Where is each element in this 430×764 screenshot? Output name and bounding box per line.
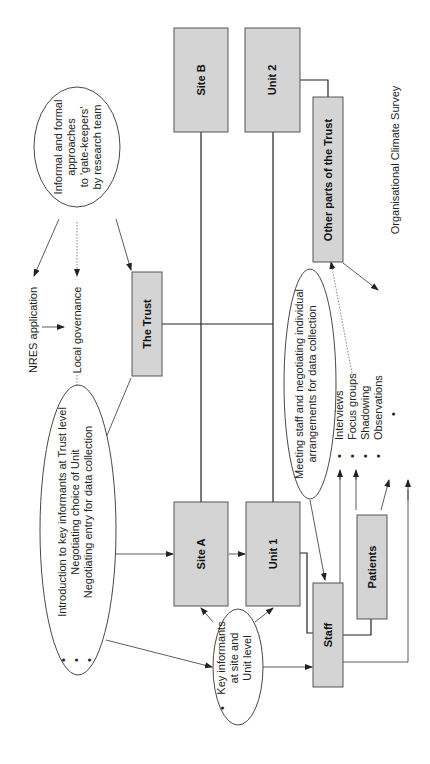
svg-text:Other parts of the Trust: Other parts of the Trust [322, 119, 334, 242]
svg-text:•: • [70, 658, 82, 662]
method-observations: Observations [372, 375, 384, 440]
svg-text:Patients: Patients [366, 546, 378, 589]
nres-application-label: NRES application [27, 287, 39, 373]
svg-text:Staff: Staff [322, 622, 334, 647]
box-unit-2: Unit 2 [245, 28, 300, 132]
svg-text:•: • [57, 658, 69, 662]
box-staff: Staff [313, 583, 343, 687]
ellipse-key-informants: Key informants at site and Unit level • [213, 609, 263, 725]
box-other-parts-of-trust: Other parts of the Trust [313, 97, 343, 262]
ellipse-gatekeepers: Informal and formal approaches to 'gate-… [34, 87, 120, 207]
svg-text:Site B: Site B [195, 64, 207, 95]
svg-text:•: • [372, 454, 384, 458]
svg-text:•: • [346, 454, 358, 458]
svg-text:Introduction to key informants: Introduction to key informants at Trust … [56, 407, 68, 617]
ellipse-meeting-staff: Meeting staff and negotiating individual… [284, 269, 336, 499]
method-interviews: Interviews [333, 390, 345, 440]
svg-text:Unit level: Unit level [241, 635, 253, 680]
svg-text:to 'gate-keepers': to 'gate-keepers' [78, 107, 90, 188]
svg-text:•: • [83, 658, 95, 662]
svg-text:at site and: at site and [228, 633, 240, 684]
org-climate-survey-label: Organisational Climate Survey [389, 85, 401, 234]
box-site-a: Site A [174, 502, 228, 606]
svg-text:Negotiating choice of Unit: Negotiating choice of Unit [69, 449, 81, 574]
svg-text:Unit 1: Unit 1 [267, 539, 279, 570]
svg-text:Negotiating entry for data col: Negotiating entry for data collection [82, 426, 94, 598]
method-focus-groups: Focus groups [346, 373, 358, 440]
box-the-trust: The Trust [132, 272, 162, 376]
svg-text:Site A: Site A [195, 539, 207, 570]
methods-list: Interviews Focus groups Shadowing Observ… [333, 373, 384, 458]
org-survey-bullet: • [387, 412, 399, 416]
svg-text:Unit 2: Unit 2 [266, 65, 278, 96]
svg-text:•: • [216, 706, 228, 710]
svg-text:Informal and formal: Informal and formal [52, 100, 64, 195]
local-governance-label: Local governance [71, 287, 83, 374]
ellipse-trust-level: Introduction to key informants at Trust … [40, 385, 116, 675]
svg-text:•: • [359, 454, 371, 458]
svg-text:The Trust: The Trust [141, 299, 153, 349]
box-unit-1: Unit 1 [246, 502, 300, 606]
box-site-b: Site B [174, 28, 228, 132]
svg-text:•: • [333, 454, 345, 458]
svg-text:Meeting staff and negotiating: Meeting staff and negotiating individual [293, 289, 305, 479]
svg-text:by research team: by research team [91, 105, 103, 190]
svg-text:approaches: approaches [65, 118, 77, 176]
method-shadowing: Shadowing [359, 386, 371, 440]
svg-text:arrangements for data collecti: arrangements for data collection [306, 305, 318, 462]
research-access-diagram: Site B Unit 2 Other parts of the Trust T… [0, 0, 430, 764]
svg-text:Key informants: Key informants [215, 621, 227, 695]
box-patients: Patients [357, 515, 387, 619]
